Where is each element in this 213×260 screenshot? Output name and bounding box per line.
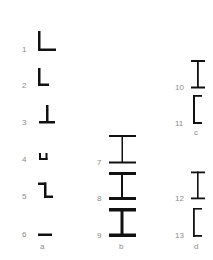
profile-number: 2 (22, 81, 27, 90)
profile-9-i-beam: 9 (97, 208, 136, 240)
profile-1-equal-angle: 1 (22, 31, 56, 54)
profile-11-channel: 11 (175, 95, 202, 128)
section-profiles-diagram: 1 2 3 4 5 6 a 7 8 9 (0, 0, 213, 260)
column-label-d: d (194, 242, 198, 251)
profile-number: 9 (97, 231, 102, 240)
profile-number: 5 (22, 192, 27, 201)
profile-3-tee: 3 (22, 105, 55, 127)
profile-number: 1 (22, 45, 27, 54)
profile-5-z-section: 5 (22, 183, 53, 202)
profile-number: 8 (97, 194, 102, 203)
profile-7-i-beam: 7 (97, 135, 136, 167)
profile-4-u-channel: 4 (22, 153, 48, 164)
profile-number: 3 (22, 118, 27, 127)
profile-number: 12 (175, 194, 184, 203)
profile-2-unequal-angle: 2 (22, 68, 49, 90)
profile-number: 11 (175, 119, 184, 128)
profile-number: 10 (175, 83, 184, 92)
profile-10-i-beam: 10 (175, 60, 205, 92)
profile-number: 13 (175, 231, 184, 240)
column-label-b: b (119, 242, 124, 251)
profile-number: 7 (97, 158, 102, 167)
column-label-c: c (194, 128, 198, 137)
profile-13-channel: 13 (175, 208, 202, 240)
profile-number: 4 (22, 155, 27, 164)
profile-12-i-beam: 12 (175, 172, 205, 204)
profile-6-flat-bar: 6 (22, 230, 52, 239)
profile-8-i-beam: 8 (97, 172, 136, 203)
column-label-a: a (40, 242, 45, 251)
profile-number: 6 (22, 230, 27, 239)
